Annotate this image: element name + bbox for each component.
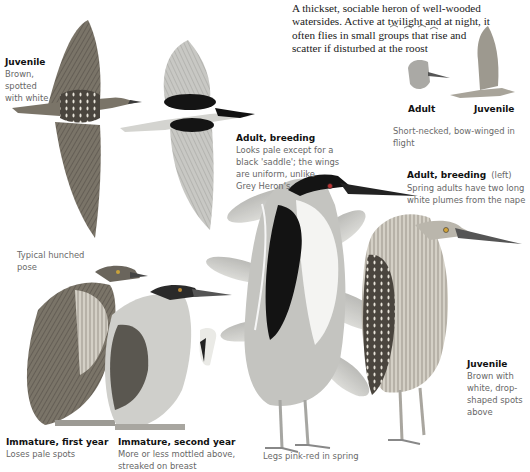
standing-adult-breeding-caption: Adult, breeding (left) Spring adults hav…	[407, 163, 530, 206]
pose-note: Typical hunched pose	[17, 249, 107, 273]
flight-adult-breeding-line: are uniform, unlike	[236, 168, 376, 180]
standing-juvenile-line: above	[467, 406, 529, 418]
small-flight-adult	[408, 60, 450, 89]
immature-first-year-caption: Immature, first year Loses pale spots	[6, 436, 116, 460]
flight-adult-breeding-line: black 'saddle'; the wings	[236, 156, 376, 168]
flight-juvenile-line: Brown,	[5, 68, 65, 80]
pose-note-line: Typical hunched	[17, 249, 107, 261]
flight-juvenile-title: Juvenile	[5, 56, 65, 68]
small-flight-adult-label: Adult	[408, 103, 435, 115]
standing-adult-breeding-suffix: (left)	[491, 170, 511, 180]
species-intro: A thickset, sociable heron of well-woode…	[292, 2, 492, 56]
standing-juvenile-caption: Juvenile Brown with white, drop- shaped …	[467, 358, 529, 418]
flight-adult-breeding-line: Grey Heron's	[236, 180, 376, 192]
flight-adult-breeding-line: Looks pale except for a	[236, 144, 376, 156]
small-flight-juvenile-label: Juvenile	[474, 103, 514, 115]
standing-adult-breeding-line: white plumes from the nape	[407, 194, 530, 206]
standing-adult-breeding-title: Adult, breeding	[407, 170, 486, 180]
standing-juvenile-line: shaped spots	[467, 394, 529, 406]
legs-note: Legs pink-red in spring	[263, 450, 359, 462]
standing-juvenile-line: Brown with	[467, 370, 529, 382]
pose-note-line: pose	[17, 261, 107, 273]
flight-juvenile-line: with white	[5, 92, 65, 104]
immature-second-year-line: More or less mottled above,	[118, 448, 268, 460]
immature-first-year-line: Loses pale spots	[6, 448, 116, 460]
immature-second-year-line: streaked on breast	[118, 460, 268, 472]
flying-adult-breeding-heron	[120, 40, 255, 230]
immature-second-year-title: Immature, second year	[118, 436, 268, 448]
flight-juvenile-line: spotted	[5, 80, 65, 92]
immature-first-year-title: Immature, first year	[6, 436, 116, 448]
standing-adult-breeding-line: Spring adults have two long	[407, 182, 530, 194]
small-flight-caption: Short-necked, bow-winged in flight	[393, 125, 530, 149]
immature-second-year-caption: Immature, second year More or less mottl…	[118, 436, 268, 472]
immature-second-year-heron	[105, 285, 232, 430]
standing-juvenile-title: Juvenile	[467, 358, 529, 370]
flight-adult-breeding-title: Adult, breeding	[236, 132, 376, 144]
standing-juvenile-line: white, drop-	[467, 382, 529, 394]
flight-juvenile-caption: Juvenile Brown, spotted with white	[5, 56, 65, 104]
flight-adult-breeding-caption: Adult, breeding Looks pale except for a …	[236, 132, 376, 192]
